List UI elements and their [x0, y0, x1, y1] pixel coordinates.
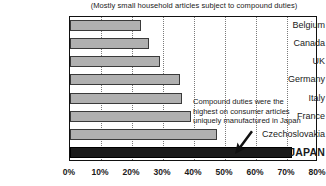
- bar-france: [70, 111, 191, 122]
- annotation-callout: Compound duties were the highest on cons…: [193, 97, 321, 126]
- bar-uk: [70, 56, 160, 67]
- x-tick-60%: 60%: [246, 167, 263, 177]
- bar-canada: [70, 38, 149, 49]
- bar-belgium: [70, 20, 141, 31]
- annotation-line-3: uniquely manufactured in Japan: [193, 116, 321, 126]
- x-tick-70%: 70%: [277, 167, 294, 177]
- x-tick-80%: 80%: [308, 167, 325, 177]
- x-tick-40%: 40%: [184, 167, 201, 177]
- x-tick-10%: 10%: [91, 167, 108, 177]
- x-tick-0%: 0%: [63, 167, 75, 177]
- category-label-canada: Canada: [259, 38, 325, 48]
- category-label-uk: UK: [259, 56, 325, 66]
- annotation-line-2: highest on consumer articles: [193, 107, 321, 117]
- bar-italy: [70, 93, 182, 104]
- category-label-belgium: Belgium: [259, 20, 325, 30]
- x-tick-20%: 20%: [122, 167, 139, 177]
- annotation-line-1: Compound duties were the: [193, 97, 321, 107]
- bar-czechoslovakia: [70, 129, 217, 140]
- category-label-czechoslovakia: Czechoslovakia: [259, 129, 325, 139]
- chart-subtitle: (Mostly small household articles subject…: [66, 1, 322, 10]
- category-label-japan: JAPAN: [259, 147, 325, 157]
- arrow-down-left-icon: [231, 130, 257, 156]
- x-tick-50%: 50%: [215, 167, 232, 177]
- bar-germany: [70, 74, 180, 85]
- category-label-germany: Germany: [259, 74, 325, 84]
- x-tick-30%: 30%: [153, 167, 170, 177]
